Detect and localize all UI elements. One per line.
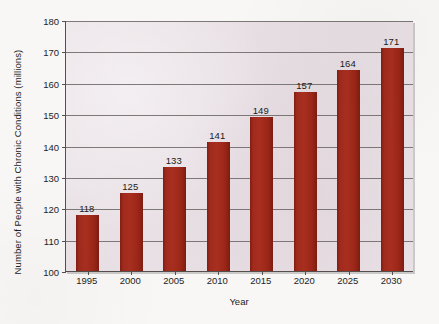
bar	[76, 215, 99, 271]
gridline	[66, 84, 413, 85]
bar-value-label: 125	[122, 181, 138, 192]
gridline	[66, 241, 413, 242]
y-axis-tick-mark	[62, 115, 66, 116]
gridline	[66, 21, 413, 22]
bar-value-label: 133	[166, 155, 182, 166]
gridline	[66, 147, 413, 148]
bar-chart-figure: Number of People with Chronic Conditions…	[0, 0, 439, 324]
bar-value-label: 171	[383, 36, 399, 47]
x-axis-tick-label: 2025	[337, 275, 358, 286]
gridline	[66, 178, 413, 179]
y-axis-tick-label: 180	[43, 16, 59, 27]
bar	[163, 167, 186, 271]
y-axis-tick-mark	[62, 209, 66, 210]
bar	[120, 193, 143, 271]
y-axis-tick-label: 110	[44, 235, 59, 246]
y-axis-tick-label: 170	[43, 47, 59, 58]
y-axis-tick-mark	[62, 178, 66, 179]
bar	[381, 48, 404, 271]
x-axis-title: Year	[65, 296, 413, 307]
x-axis-tick-label: 2015	[250, 275, 271, 286]
x-axis-tick-label: 2030	[381, 275, 402, 286]
y-axis-tick-mark	[62, 52, 66, 53]
y-axis-tick-label: 120	[43, 204, 59, 215]
x-axis-tick-label: 2005	[163, 275, 184, 286]
bar-value-label: 164	[340, 58, 356, 69]
bar	[207, 142, 230, 271]
y-axis-tick-label: 160	[43, 78, 59, 89]
bar-value-label: 149	[253, 105, 269, 116]
y-axis-tick-label: 140	[43, 141, 59, 152]
y-axis-tick-label: 150	[43, 110, 59, 121]
x-axis-tick-label: 1995	[76, 275, 97, 286]
x-axis-tick-label: 2000	[120, 275, 141, 286]
bar	[250, 117, 273, 271]
x-axis-tick-label: 2020	[294, 275, 315, 286]
plot-area: 180170160150140130120110100	[65, 21, 413, 272]
y-axis-tick-mark	[62, 272, 66, 273]
bar	[294, 92, 317, 271]
y-axis-tick-label: 130	[43, 172, 59, 183]
bar	[337, 70, 360, 271]
bar-value-label: 157	[296, 80, 312, 91]
gridline	[66, 209, 413, 210]
gridline	[66, 115, 413, 116]
gridline	[66, 52, 413, 53]
y-axis-tick-mark	[62, 147, 66, 148]
y-axis-tick-mark	[62, 241, 66, 242]
bar-value-label: 141	[209, 130, 225, 141]
bar-value-label: 118	[79, 203, 94, 214]
x-axis-tick-label: 2010	[207, 275, 228, 286]
y-axis-tick-mark	[62, 21, 66, 22]
y-axis-tick-mark	[62, 84, 66, 85]
y-axis-tick-label: 100	[43, 267, 59, 278]
